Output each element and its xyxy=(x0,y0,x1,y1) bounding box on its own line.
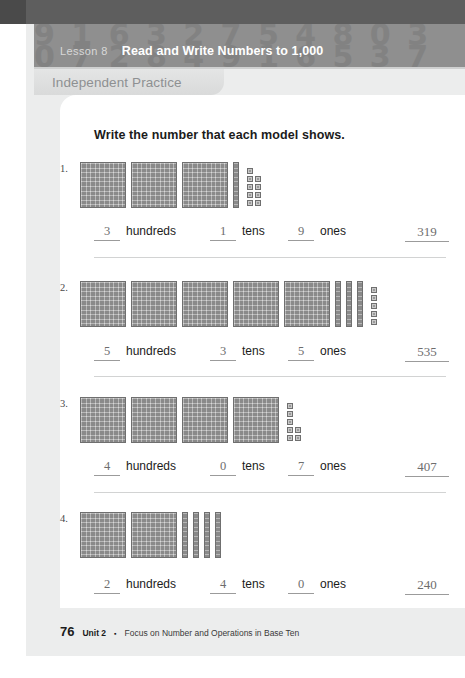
ones-row xyxy=(371,311,377,317)
hundreds-input[interactable]: 2 xyxy=(94,577,120,594)
ten-rod xyxy=(182,512,188,558)
problem-number: 2. xyxy=(60,282,68,293)
tens-slot: 4 tens xyxy=(210,577,265,594)
hundred-flat xyxy=(182,162,228,208)
total-input[interactable]: 407 xyxy=(405,459,449,477)
base-ten-model xyxy=(80,162,261,208)
answer-row: 5 hundreds 3 tens 5 ones 535 xyxy=(60,344,465,364)
hundreds-slot: 2 hundreds xyxy=(94,577,176,594)
unit-cube xyxy=(287,411,293,417)
unit-cube xyxy=(247,192,253,198)
book-gutter-left xyxy=(0,24,26,656)
total-input[interactable]: 535 xyxy=(405,344,449,362)
ten-rod xyxy=(233,162,239,208)
tab-label: Independent Practice xyxy=(52,75,182,90)
unit-cube xyxy=(255,200,261,206)
unit-cube xyxy=(247,200,253,206)
unit-cube xyxy=(371,311,377,317)
ones-group xyxy=(247,162,261,206)
ones-input[interactable]: 9 xyxy=(288,224,314,241)
tens-slot: 0 tens xyxy=(210,459,265,476)
ones-input[interactable]: 0 xyxy=(288,577,314,594)
hundreds-label: hundreds xyxy=(126,224,176,238)
hundreds-slot: 3 hundreds xyxy=(94,224,176,241)
answer-row: 3 hundreds 1 tens 9 ones 319 xyxy=(60,224,465,244)
footer-unit: Unit 2 xyxy=(82,628,106,638)
hundreds-input[interactable]: 4 xyxy=(94,459,120,476)
ones-row xyxy=(371,319,377,325)
tens-slot: 3 tens xyxy=(210,344,265,361)
tens-label: tens xyxy=(242,224,265,238)
unit-cube xyxy=(255,176,261,182)
hundred-flat xyxy=(233,397,279,443)
problem-divider xyxy=(94,376,446,377)
unit-cube xyxy=(287,435,293,441)
hundred-flat xyxy=(80,281,126,327)
ones-slot: 5 ones xyxy=(288,344,346,361)
base-ten-model xyxy=(80,512,221,558)
ones-input[interactable]: 5 xyxy=(288,344,314,361)
unit-cube xyxy=(247,176,253,182)
footer-page-number: 76 xyxy=(60,624,74,639)
unit-cube xyxy=(371,319,377,325)
unit-cube xyxy=(287,403,293,409)
unit-cube xyxy=(287,419,293,425)
ten-rod xyxy=(357,281,363,327)
hundreds-label: hundreds xyxy=(126,459,176,473)
hundreds-slot: 4 hundreds xyxy=(94,459,176,476)
unit-cube xyxy=(371,295,377,301)
hundred-flat xyxy=(80,162,126,208)
ones-row xyxy=(247,176,261,182)
ones-row xyxy=(247,168,261,174)
ten-rod xyxy=(193,512,199,558)
problem-number: 1. xyxy=(60,163,68,174)
ones-row xyxy=(287,427,301,433)
ones-row xyxy=(287,411,301,417)
hundred-flat xyxy=(131,162,177,208)
ten-rod xyxy=(346,281,352,327)
tens-input[interactable]: 1 xyxy=(210,224,236,241)
total-input[interactable]: 319 xyxy=(405,224,449,242)
unit-cube xyxy=(247,184,253,190)
ones-row xyxy=(247,192,261,198)
ones-label: ones xyxy=(320,224,346,238)
tens-input[interactable]: 0 xyxy=(210,459,236,476)
book-gutter-top xyxy=(0,0,465,24)
base-ten-model xyxy=(80,397,301,443)
hundred-flat xyxy=(131,281,177,327)
lesson-header-content: Lesson 8 Read and Write Numbers to 1,000 xyxy=(34,39,465,63)
total-input[interactable]: 240 xyxy=(405,577,449,595)
problem-number: 4. xyxy=(60,513,68,524)
hundreds-input[interactable]: 5 xyxy=(94,344,120,361)
answer-row: 4 hundreds 0 tens 7 ones 407 xyxy=(60,459,465,479)
page-title: Write the number that each model shows. xyxy=(94,128,345,142)
hundred-flat xyxy=(131,397,177,443)
unit-cube xyxy=(295,427,301,433)
page-bottom-edge xyxy=(0,656,465,678)
tens-slot: 1 tens xyxy=(210,224,265,241)
unit-cube xyxy=(371,287,377,293)
ones-label: ones xyxy=(320,344,346,358)
hundred-flat xyxy=(182,397,228,443)
problem-divider xyxy=(94,492,446,493)
unit-cube xyxy=(255,192,261,198)
worksheet-page: 9 1 6 3 2 7 5 4 8 0 3 0 7 2 8 4 9 1 6 5 … xyxy=(0,0,465,678)
tab-independent-practice: Independent Practice xyxy=(34,69,224,95)
footer-description: Focus on Number and Operations in Base T… xyxy=(125,628,300,638)
ten-rod xyxy=(335,281,341,327)
ones-row xyxy=(287,435,301,441)
hundreds-slot: 5 hundreds xyxy=(94,344,176,361)
answer-row: 2 hundreds 4 tens 0 ones 240 xyxy=(60,577,465,597)
tens-input[interactable]: 4 xyxy=(210,577,236,594)
unit-cube xyxy=(287,427,293,433)
hundreds-label: hundreds xyxy=(126,577,176,591)
ones-row xyxy=(371,303,377,309)
ones-row xyxy=(371,287,377,293)
ones-input[interactable]: 7 xyxy=(288,459,314,476)
ones-group xyxy=(371,281,377,325)
problem-number: 3. xyxy=(60,398,68,409)
footer-separator: ▪ xyxy=(114,630,116,637)
tens-input[interactable]: 3 xyxy=(210,344,236,361)
hundreds-input[interactable]: 3 xyxy=(94,224,120,241)
ten-rod xyxy=(215,512,221,558)
